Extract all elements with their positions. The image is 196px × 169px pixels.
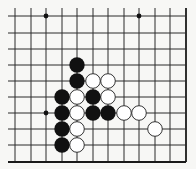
black-stone: [54, 121, 69, 136]
black-stone: [100, 105, 115, 120]
white-stone: [101, 74, 116, 89]
black-stone: [54, 89, 69, 104]
black-stone: [69, 73, 84, 88]
white-stone: [70, 122, 85, 137]
black-stone: [85, 105, 100, 120]
go-board: [0, 0, 196, 169]
white-stone: [117, 106, 132, 121]
go-board-svg: [0, 0, 196, 169]
black-stone: [69, 57, 84, 72]
star-point-icon: [44, 111, 49, 116]
star-point-icon: [44, 14, 49, 19]
black-stone: [54, 137, 69, 152]
white-stone: [70, 90, 85, 105]
black-stone: [85, 89, 100, 104]
white-stone: [132, 106, 147, 121]
star-point-icon: [137, 14, 142, 19]
white-stone: [70, 106, 85, 121]
white-stone: [148, 122, 163, 137]
white-stone: [70, 138, 85, 153]
white-stone: [101, 90, 116, 105]
black-stone: [54, 105, 69, 120]
white-stone: [86, 74, 101, 89]
